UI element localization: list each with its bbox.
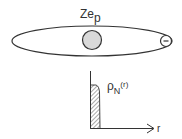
nucleus-charge-label: Zep: [80, 7, 101, 25]
density-label: ρN(r): [107, 79, 129, 96]
atom-diagram: Zep ρN(r) r: [0, 0, 182, 139]
density-profile: [91, 85, 101, 129]
r-axis-label: r: [157, 123, 161, 134]
nucleus: [83, 31, 102, 50]
